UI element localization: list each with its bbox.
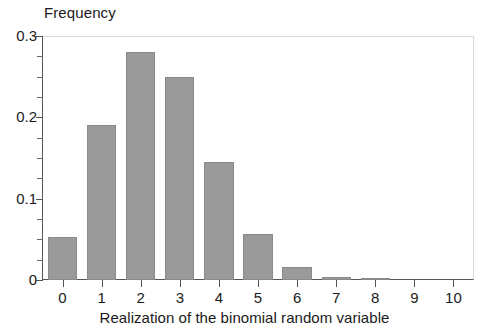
bar-slot	[395, 36, 434, 280]
bar-slot	[238, 36, 277, 280]
y-axis-minor-tick	[37, 77, 43, 78]
bar-slot	[82, 36, 121, 280]
y-axis-minor-tick	[37, 56, 43, 57]
y-axis-tick-label: 0.1	[16, 191, 37, 206]
x-axis-tick	[180, 280, 181, 287]
y-axis-tick-label: 0	[29, 272, 37, 287]
x-axis-title: Realization of the binomial random varia…	[0, 309, 489, 326]
bar-chart-figure: Frequency 00.10.20.3 012345678910 Realiz…	[0, 0, 489, 332]
bar-slot	[278, 36, 317, 280]
y-axis-minor-tick	[37, 178, 43, 179]
bar-5[interactable]	[243, 234, 272, 280]
x-axis-tick	[453, 280, 454, 287]
y-axis-minor-tick	[37, 138, 43, 139]
y-axis-tick-label: 0.2	[16, 109, 37, 124]
x-axis-tick	[297, 280, 298, 287]
x-axis-tick-label: 6	[277, 290, 317, 305]
bar-slot	[199, 36, 238, 280]
x-axis-tick-label: 0	[43, 290, 83, 305]
bar-2[interactable]	[126, 52, 155, 280]
bar-3[interactable]	[165, 77, 194, 280]
bar-slot	[317, 36, 356, 280]
x-axis-tick-label: 4	[199, 290, 239, 305]
y-axis-minor-tick	[37, 97, 43, 98]
y-axis-minor-tick	[37, 219, 43, 220]
x-axis-tick-label: 3	[160, 290, 200, 305]
y-axis-minor-tick	[37, 158, 43, 159]
bar-slot	[356, 36, 395, 280]
y-axis-major-tick	[36, 117, 43, 118]
bar-0[interactable]	[48, 237, 77, 280]
y-axis-minor-tick	[37, 239, 43, 240]
bar-1[interactable]	[87, 125, 116, 280]
bar-slot	[121, 36, 160, 280]
y-axis-minor-tick	[37, 260, 43, 261]
y-axis-major-tick	[36, 199, 43, 200]
bar-4[interactable]	[204, 162, 233, 280]
x-axis-tick-label: 8	[355, 290, 395, 305]
y-axis-title: Frequency	[44, 4, 116, 21]
x-axis-tick	[219, 280, 220, 287]
x-axis-tick	[258, 280, 259, 287]
x-axis-tick	[141, 280, 142, 287]
x-axis-tick-label: 2	[121, 290, 161, 305]
x-axis-tick-label: 5	[238, 290, 278, 305]
x-axis-tick-label: 9	[394, 290, 434, 305]
bar-slot	[160, 36, 199, 280]
x-axis-tick-label: 1	[82, 290, 122, 305]
x-axis-tick-label: 10	[433, 290, 473, 305]
bar-6[interactable]	[282, 267, 311, 280]
x-axis-tick-label: 7	[316, 290, 356, 305]
bar-slot	[434, 36, 473, 280]
x-axis-tick	[375, 280, 376, 287]
y-axis-major-tick	[36, 280, 43, 281]
bars-layer	[43, 36, 473, 280]
x-axis-tick	[63, 280, 64, 287]
x-axis-tick	[414, 280, 415, 287]
x-axis-tick	[102, 280, 103, 287]
y-axis-tick-label: 0.3	[16, 28, 37, 43]
bar-slot	[43, 36, 82, 280]
y-axis-major-tick	[36, 36, 43, 37]
x-axis-tick	[336, 280, 337, 287]
